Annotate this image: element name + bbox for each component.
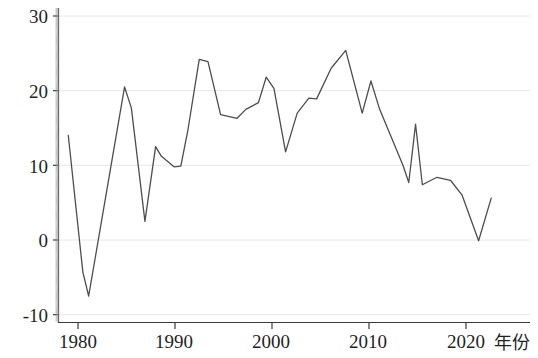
y-tick-label-minus-10: -10 xyxy=(0,306,48,325)
y-tick-label-30: 30 xyxy=(6,7,48,26)
x-tick-label-1990: 1990 xyxy=(134,332,214,351)
x-axis-title: 年份 xyxy=(494,334,530,352)
x-tick-label-2000: 2000 xyxy=(231,332,311,351)
x-tick-label-2010: 2010 xyxy=(328,332,408,351)
plot-area xyxy=(0,0,538,358)
y-tick-label-20: 20 xyxy=(6,82,48,101)
data-series-line xyxy=(68,50,491,296)
line-chart: 30 20 10 0 -10 1980 1990 2000 2010 2020 … xyxy=(0,0,538,358)
y-tick-label-10: 10 xyxy=(6,157,48,176)
gridlines xyxy=(59,16,530,315)
x-tick-label-1980: 1980 xyxy=(38,332,118,351)
y-tick-label-0: 0 xyxy=(6,231,48,250)
